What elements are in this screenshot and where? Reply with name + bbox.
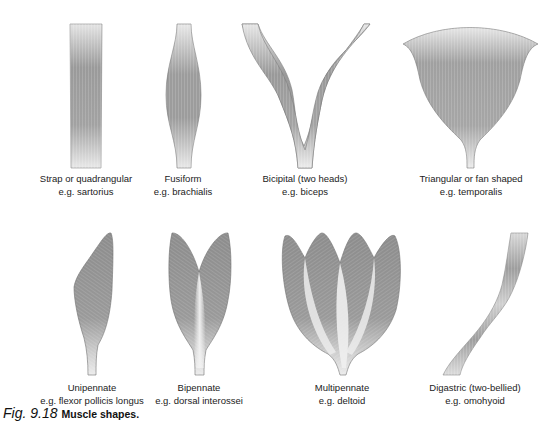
shape-name: Unipennate — [40, 381, 144, 394]
shape-name: Triangular or fan shaped — [419, 172, 522, 185]
shape-name: Strap or quadrangular — [40, 172, 132, 185]
fusiform-muscle-shape — [166, 24, 201, 168]
triangular-muscle-shape — [403, 28, 538, 169]
shape-example: e.g. sartorius — [40, 185, 132, 198]
bipennate-label: Bipennate e.g. dorsal interossei — [155, 381, 243, 407]
strap-muscle-shape — [70, 24, 102, 168]
shape-example: e.g. temporalis — [419, 185, 522, 198]
bicipital-label: Bicipital (two heads) e.g. biceps — [262, 172, 347, 198]
triangular-label: Triangular or fan shaped e.g. temporalis — [419, 172, 522, 198]
bipennate-muscle-shape — [169, 233, 231, 375]
shape-example: e.g. omohyoid — [429, 394, 520, 407]
bicipital-muscle-shape — [242, 24, 370, 168]
unipennate-muscle-shape — [74, 233, 113, 375]
figure-number: Fig. 9.18 — [3, 405, 57, 421]
shape-example: e.g. brachialis — [154, 185, 213, 198]
shape-name: Multipennate — [315, 381, 369, 394]
digastric-muscle-shape — [443, 233, 528, 375]
digastric-label: Digastric (two-bellied) e.g. omohyoid — [429, 381, 520, 407]
strap-label: Strap or quadrangular e.g. sartorius — [40, 172, 132, 198]
unipennate-label: Unipennate e.g. flexor pollicis longus — [40, 381, 144, 407]
fusiform-label: Fusiform e.g. brachialis — [154, 172, 213, 198]
figure-title: Muscle shapes. — [61, 408, 139, 420]
multipennate-label: Multipennate e.g. deltoid — [315, 381, 369, 407]
shape-name: Bicipital (two heads) — [262, 172, 347, 185]
shape-example: e.g. deltoid — [315, 394, 369, 407]
shape-name: Fusiform — [154, 172, 213, 185]
muscle-shapes-illustration — [0, 0, 554, 427]
shape-example: e.g. biceps — [262, 185, 347, 198]
figure-caption: Fig. 9.18Muscle shapes. — [3, 405, 139, 421]
multipennate-muscle-shape — [282, 233, 400, 375]
shape-example: e.g. dorsal interossei — [155, 394, 243, 407]
shape-name: Digastric (two-bellied) — [429, 381, 520, 394]
shape-name: Bipennate — [155, 381, 243, 394]
